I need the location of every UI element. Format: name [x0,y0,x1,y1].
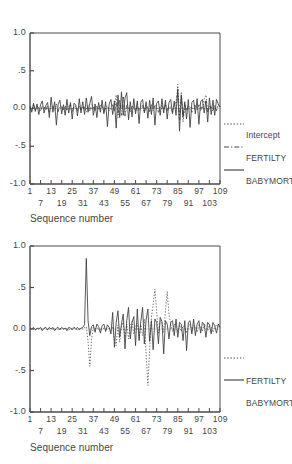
xtick-label: 97 [188,414,210,424]
xtick-label: 49 [104,186,126,196]
xtick-label: 55 [114,426,136,436]
xtick-label: 85 [167,414,189,424]
xtick-label: 1 [19,186,41,196]
ytick-label: 0.0 [0,102,26,112]
legend-samples-top [224,124,244,170]
xtick-label: 61 [125,186,147,196]
xtick-label: 55 [114,198,136,208]
residual-chart-bottom: 1.0 .5 0.0 -.5 -1.0 1 13 25 37 49 61 73 … [0,232,292,464]
xtick-label: 19 [51,198,73,208]
xtick-label: 13 [40,414,62,424]
xtick-label: 103 [199,426,221,436]
legend-label-intercept: Intercept [246,130,280,140]
xtick-label: 109 [209,186,231,196]
xtick-label: 37 [82,186,104,196]
series-line-fertilty [30,289,220,385]
xtick-label: 31 [72,198,94,208]
ytick-label: 1.0 [0,27,26,37]
legend-label-fertilty: FERTILTY [246,153,286,163]
xtick-label: 37 [82,414,104,424]
x-axis-title: Sequence number [30,442,113,453]
x-axis-title: Sequence number [30,213,113,224]
series-line-babymort [30,258,220,353]
xtick-label: 73 [146,414,168,424]
ytick-label: -.5 [0,365,26,375]
xtick-label: 97 [188,186,210,196]
xtick-label: 43 [93,426,115,436]
xtick-label: 103 [199,198,221,208]
xtick-label: 7 [30,198,52,208]
ytick-label: .5 [0,282,26,292]
xtick-label: 25 [61,414,83,424]
xtick-label: 49 [104,414,126,424]
xtick-label: 109 [209,414,231,424]
xtick-label: 67 [135,426,157,436]
ytick-label: 0.0 [0,323,26,333]
xtick-label: 13 [40,186,62,196]
data-series-bottom [30,258,220,385]
xtick-label: 67 [135,198,157,208]
xtick-label: 19 [51,426,73,436]
legend-label-babymort: BABYMORT [246,176,292,186]
xtick-label: 61 [125,414,147,424]
xtick-label: 1 [19,414,41,424]
legend-samples-bottom [224,358,244,380]
xtick-label: 7 [30,426,52,436]
xtick-label: 31 [72,426,94,436]
xtick-label: 73 [146,186,168,196]
ytick-label: .5 [0,65,26,75]
xtick-label: 91 [178,198,200,208]
xtick-label: 85 [167,186,189,196]
data-series-top [30,84,220,131]
ytick-label: 1.0 [0,240,26,250]
xtick-label: 91 [178,426,200,436]
legend-label-babymort-2: BABYMORT [246,398,292,408]
legend-label-fertilty-2: FERTILTY [246,376,286,386]
residual-chart-top: 1.0 .5 0.0 -.5 -1.0 1 13 25 37 49 61 73 … [0,0,292,232]
xtick-label: 79 [156,198,178,208]
xtick-label: 79 [156,426,178,436]
ytick-label: -.5 [0,140,26,150]
xtick-label: 43 [93,198,115,208]
xtick-label: 25 [61,186,83,196]
